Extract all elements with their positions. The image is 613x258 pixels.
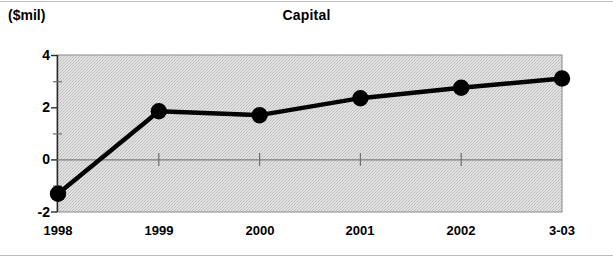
plot-area [0,0,613,258]
x-tick-label-3-03: 3-03 [517,224,607,238]
y-tick-label-2: 2 [22,100,50,114]
data-point-2002 [453,80,469,96]
x-tick-label-1998: 1998 [13,224,103,238]
y-tick-label-4: 4 [22,48,50,62]
x-tick-label-2000: 2000 [215,224,305,238]
y-tick-2: 2 [22,100,50,114]
data-point-2001 [352,90,368,106]
x-tick-label-2001: 2001 [315,224,405,238]
data-point-2000 [251,107,267,123]
y-tick-label-minus-2: -2 [22,205,50,219]
data-point-1999 [151,103,167,119]
chart-svg [0,0,613,258]
y-tick-0: 0 [22,152,50,166]
data-point-3-03 [554,70,570,86]
chart-figure: ($mil) Capital [0,0,613,258]
y-tick-minus-2: -2 [22,205,50,219]
x-tick-label-1999: 1999 [114,224,204,238]
y-tick-4: 4 [22,48,50,62]
y-tick-label-0: 0 [22,152,50,166]
data-point-1998 [50,186,66,202]
x-tick-label-2002: 2002 [416,224,506,238]
